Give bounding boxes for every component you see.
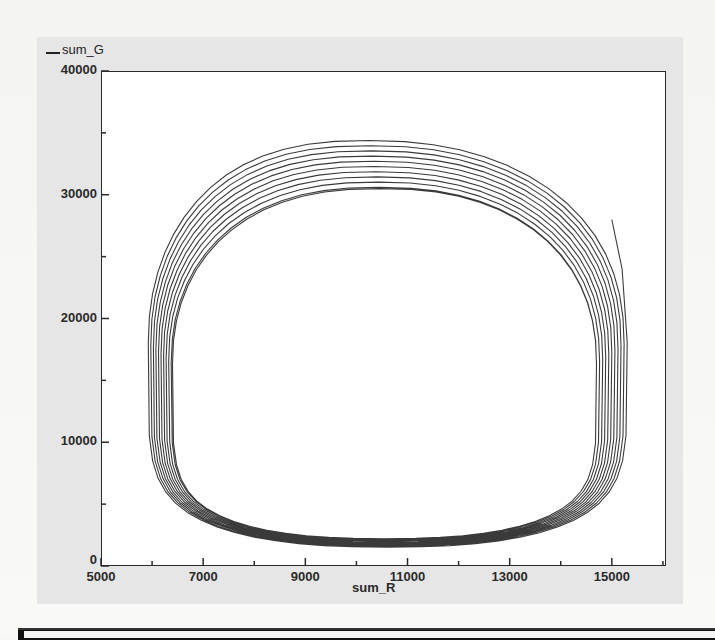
x-tick-label: 9000 [275,569,335,584]
series-sum-g-trajectory [148,141,627,548]
y-tick-label: 10000 [37,433,97,448]
x-axis-title: sum_R [352,580,395,595]
x-tick-label: 13000 [480,569,540,584]
y-tick-label: 40000 [37,62,97,77]
x-tick-label: 7000 [173,569,233,584]
page-bottom-rule-inner [24,631,715,638]
x-tick-label: 5000 [71,569,131,584]
y-tick-label: 20000 [37,310,97,325]
y-tick-label: 30000 [37,186,97,201]
x-tick-label: 15000 [582,569,642,584]
y-tick-label: 0 [37,552,97,567]
